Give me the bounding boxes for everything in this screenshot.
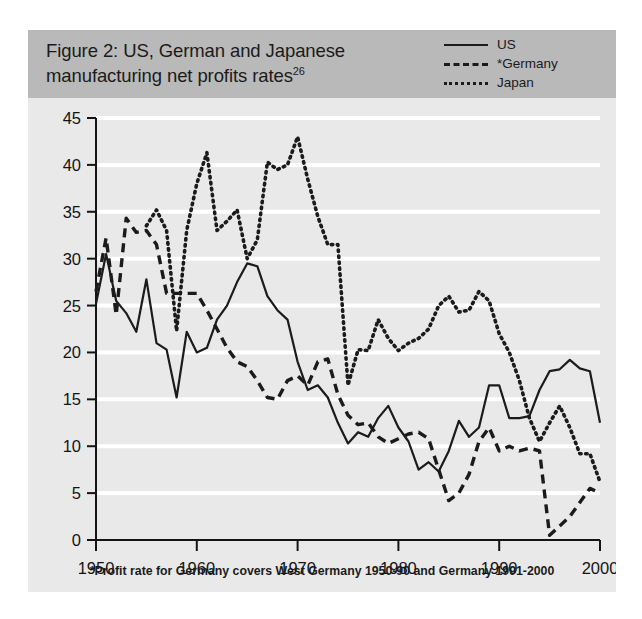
legend-item-japan[interactable]: Japan [444, 73, 604, 92]
y-tick-label: 40 [63, 156, 81, 174]
legend-label-japan: Japan [497, 75, 534, 90]
legend-swatch-solid-icon [444, 39, 488, 51]
figure-title: Figure 2: US, German and Japanese manufa… [46, 38, 426, 88]
y-tick-label: 35 [63, 203, 81, 221]
figure-title-text: Figure 2: US, German and Japanese manufa… [46, 40, 345, 86]
plot-area: 051015202530354045 195019601970198019902… [28, 98, 616, 592]
data-series [96, 137, 600, 536]
gridlines [96, 118, 600, 493]
y-tick-label: 25 [63, 297, 81, 315]
figure-title-superscript: 26 [293, 65, 305, 77]
y-tick-label: 45 [63, 109, 81, 127]
legend-label-us: US [497, 37, 516, 52]
y-tick-label: 0 [72, 531, 81, 549]
y-axis-ticks: 051015202530354045 [63, 109, 96, 549]
figure-footnote: *Profit rate for Germany covers West Ger… [28, 564, 616, 578]
legend-swatch-dashed-icon [444, 58, 488, 70]
line-chart-svg: 051015202530354045 195019601970198019902… [28, 98, 616, 592]
y-tick-label: 30 [63, 250, 81, 268]
y-tick-label: 10 [63, 437, 81, 455]
legend-item-us[interactable]: US [444, 35, 604, 54]
axes [96, 118, 600, 540]
legend-swatch-dotted-icon [444, 77, 488, 89]
chart-legend: US *Germany Japan [444, 35, 604, 92]
legend-label-germany: *Germany [497, 56, 558, 71]
y-tick-label: 20 [63, 343, 81, 361]
figure-container: Figure 2: US, German and Japanese manufa… [28, 30, 616, 592]
y-tick-label: 15 [63, 390, 81, 408]
legend-item-germany[interactable]: *Germany [444, 54, 604, 73]
y-tick-label: 5 [72, 484, 81, 502]
figure-header-band: Figure 2: US, German and Japanese manufa… [28, 30, 616, 98]
